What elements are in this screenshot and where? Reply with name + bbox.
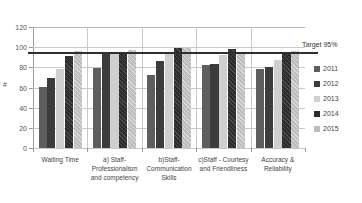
x-axis-label: a) Staff-Professionalism and competency: [87, 155, 141, 182]
y-tick-label-20: 20: [19, 124, 27, 131]
gridline-0: [33, 148, 305, 149]
bar-group: [87, 27, 141, 148]
legend-label: 2015: [323, 125, 339, 132]
bar: [265, 67, 273, 148]
bar: [228, 49, 236, 148]
y-axis-title: #: [3, 81, 7, 88]
bar: [237, 52, 245, 148]
x-tick: [305, 148, 306, 152]
legend-label: 2011: [323, 65, 338, 72]
y-tick-label-80: 80: [19, 64, 27, 71]
bar: [282, 52, 290, 148]
plot-area: 020406080100120: [33, 27, 305, 148]
bar: [39, 87, 47, 149]
y-tick-label-0: 0: [23, 145, 27, 152]
bar: [147, 75, 155, 148]
legend-item-2011[interactable]: 2011: [314, 61, 360, 76]
legend-label: 2012: [323, 80, 339, 87]
y-tick-label-60: 60: [19, 84, 27, 91]
x-axis-label: Waiting Time: [33, 155, 87, 164]
y-tick-label-120: 120: [15, 24, 27, 31]
y-tick-label-100: 100: [15, 44, 27, 51]
x-tick: [251, 148, 252, 152]
x-tick: [33, 148, 34, 152]
bar: [47, 78, 55, 148]
bar-group: [142, 27, 196, 148]
bar-group: [196, 27, 250, 148]
x-tick: [87, 148, 88, 152]
legend-label: 2013: [323, 95, 339, 102]
bar: [182, 48, 190, 148]
bar: [119, 52, 127, 148]
bar: [65, 56, 73, 148]
bar: [210, 64, 218, 148]
bar: [256, 69, 264, 148]
legend-swatch-icon: [314, 111, 320, 117]
bar: [102, 53, 110, 148]
bar: [74, 51, 82, 148]
bar: [219, 55, 227, 148]
bar: [56, 69, 64, 148]
bar: [165, 53, 173, 148]
legend-label: 2014: [323, 110, 339, 117]
bar: [291, 51, 299, 148]
legend: 20112012201320142015: [314, 61, 360, 136]
bar: [110, 52, 118, 148]
bar-chart: # 020406080100120 Target 95% Waiting Tim…: [0, 0, 362, 203]
legend-swatch-icon: [314, 96, 320, 102]
x-axis-label: c)Staff - Courtesy and Friendliness: [196, 155, 250, 173]
target-line: [28, 52, 318, 54]
bar: [174, 48, 182, 148]
bar: [274, 60, 282, 148]
bar-group: [251, 27, 305, 148]
legend-swatch-icon: [314, 126, 320, 132]
legend-swatch-icon: [314, 66, 320, 72]
bar: [128, 50, 136, 148]
x-axis-label: Accuracy & Reliability: [251, 155, 305, 173]
legend-item-2015[interactable]: 2015: [314, 121, 360, 136]
x-tick: [142, 148, 143, 152]
legend-item-2013[interactable]: 2013: [314, 91, 360, 106]
bar: [156, 61, 164, 148]
legend-item-2014[interactable]: 2014: [314, 106, 360, 121]
bar: [202, 65, 210, 148]
bar-group: [33, 27, 87, 148]
bar: [93, 68, 101, 148]
x-tick: [196, 148, 197, 152]
legend-item-2012[interactable]: 2012: [314, 76, 360, 91]
x-axis-label: b)Staff-Communication Skills: [142, 155, 196, 182]
target-line-label: Target 95%: [302, 41, 337, 48]
y-tick-label-40: 40: [19, 104, 27, 111]
legend-swatch-icon: [314, 81, 320, 87]
x-axis-tick-labels: Waiting Timea) Staff-Professionalism and…: [33, 155, 306, 201]
